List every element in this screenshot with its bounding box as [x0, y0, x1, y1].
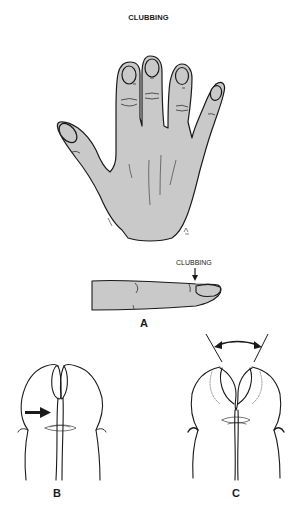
normal-fingers-window — [18, 365, 106, 481]
window-arrow — [25, 407, 51, 418]
clubbing-illustration — [0, 0, 297, 506]
distal-angle-indicator — [206, 334, 268, 362]
finger-lateral-view — [92, 280, 221, 310]
clubbing-callout-arrow — [192, 268, 198, 281]
panel-label-a: A — [140, 317, 148, 329]
panel-label-c: C — [232, 487, 240, 499]
artist-signature — [184, 228, 189, 234]
hand-dorsal-view — [56, 56, 225, 241]
panel-label-b: B — [53, 487, 61, 499]
clubbing-callout-label: CLUBBING — [176, 259, 212, 266]
clubbed-fingers-no-window — [188, 367, 284, 480]
